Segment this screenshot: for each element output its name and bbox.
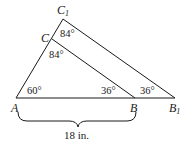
angle-c: 84° xyxy=(49,49,64,60)
label-c1: C1 xyxy=(57,3,69,18)
side-c-b xyxy=(52,39,135,98)
angle-b1: 36° xyxy=(140,85,155,96)
label-b1: B1 xyxy=(169,101,180,116)
angle-c1: 84° xyxy=(60,28,75,39)
brace xyxy=(18,112,136,127)
measurement-label: 18 in. xyxy=(64,129,89,141)
label-b: B xyxy=(130,101,138,115)
angle-b: 36° xyxy=(101,85,116,96)
angle-a: 60° xyxy=(27,85,42,96)
similar-triangles-diagram: C1 C A B B1 84° 84° 60° 36° 36° 18 in. xyxy=(0,0,190,143)
label-c: C xyxy=(41,31,50,45)
